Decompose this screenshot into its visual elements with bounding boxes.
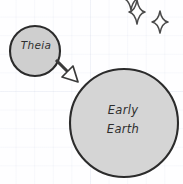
theia-circle — [10, 26, 60, 76]
early-earth-label-line1: Early — [93, 101, 153, 120]
early-earth-label-line2: Earth — [93, 120, 153, 139]
impact-arrow — [56, 60, 78, 82]
theia-label: Theia — [16, 39, 56, 51]
impact-diagram-canvas: Theia Early Earth — [0, 0, 183, 184]
sparkle-right-icon — [152, 11, 168, 33]
early-earth-label: Early Earth — [93, 101, 153, 139]
